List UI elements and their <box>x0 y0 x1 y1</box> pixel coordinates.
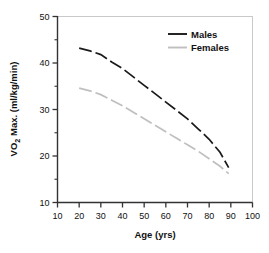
x-tick-label-50: 50 <box>139 211 149 221</box>
x-tick-label-30: 30 <box>96 211 106 221</box>
x-tick-label-80: 80 <box>204 211 214 221</box>
y-tick-label-30: 30 <box>39 105 49 115</box>
legend-label-females: Females <box>191 42 229 53</box>
legend-label-males: Males <box>191 29 217 40</box>
x-tick-label-90: 90 <box>226 211 236 221</box>
y-tick-label-40: 40 <box>39 58 49 68</box>
x-tick-label-10: 10 <box>52 211 62 221</box>
x-tick-label-100: 100 <box>245 211 260 221</box>
x-tick-label-60: 60 <box>161 211 171 221</box>
x-axis-title: Age (yrs) <box>134 229 175 240</box>
y-axis-title-pre: VO <box>8 143 19 157</box>
x-tick-label-20: 20 <box>74 211 84 221</box>
chart-figure: 1020304050 102030405060708090100 MalesFe… <box>0 0 269 253</box>
y-tick-label-10: 10 <box>39 198 49 208</box>
y-tick-label-20: 20 <box>39 151 49 161</box>
y-tick-label-50: 50 <box>39 12 49 22</box>
x-tick-label-70: 70 <box>182 211 192 221</box>
chart-svg: 1020304050 102030405060708090100 MalesFe… <box>0 0 269 253</box>
y-axis-title-post: Max. (ml/kg/min) <box>8 62 19 139</box>
x-tick-label-40: 40 <box>117 211 127 221</box>
